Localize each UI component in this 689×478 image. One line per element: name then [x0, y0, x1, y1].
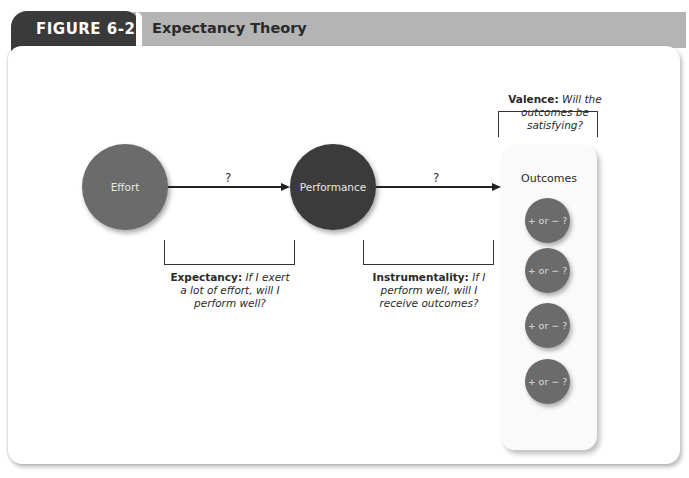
- expectancy-bracket: [164, 240, 295, 265]
- expectancy-caption: Expectancy: If I exert a lot of effort, …: [150, 271, 310, 310]
- effort-performance-arrow: [168, 186, 282, 188]
- effort-node: Effort: [82, 144, 168, 230]
- outcome-item: + or − ?: [525, 198, 570, 243]
- figure-label: FIGURE 6-2: [11, 11, 138, 51]
- outcome-item: + or − ?: [525, 248, 570, 293]
- arrowhead-icon: [492, 183, 501, 191]
- expectancy-line1: If I exert: [245, 271, 289, 283]
- expectancy-term: Expectancy:: [170, 271, 242, 283]
- expectancy-question-mark: ?: [225, 171, 231, 185]
- expectancy-line3: perform well?: [194, 297, 266, 309]
- performance-node: Performance: [290, 144, 376, 230]
- valence-line1: Will the: [562, 93, 602, 105]
- instrumentality-question-mark: ?: [433, 171, 439, 185]
- tab-separator: [136, 12, 142, 48]
- instrumentality-term: Instrumentality:: [373, 271, 469, 283]
- performance-outcomes-arrow: [376, 186, 493, 188]
- effort-label: Effort: [111, 181, 140, 193]
- outcomes-title: Outcomes: [501, 172, 597, 185]
- outcome-item: + or − ?: [525, 303, 570, 348]
- instrumentality-line2: perform well, will I: [381, 284, 478, 296]
- figure-stage: FIGURE 6-2 Expectancy Theory Valence: Wi…: [0, 0, 689, 478]
- outcome-item: + or − ?: [525, 359, 570, 404]
- outcomes-card: Outcomes + or − ? + or − ? + or − ? + or…: [501, 145, 597, 450]
- instrumentality-line1: If I: [472, 271, 485, 283]
- expectancy-line2: a lot of effort, will I: [180, 284, 279, 296]
- instrumentality-line3: receive outcomes?: [379, 297, 478, 309]
- instrumentality-bracket: [363, 240, 494, 265]
- performance-label: Performance: [300, 181, 367, 193]
- figure-title: Expectancy Theory: [152, 20, 307, 36]
- valence-bracket: [498, 111, 598, 137]
- instrumentality-caption: Instrumentality: If I perform well, will…: [348, 271, 510, 310]
- valence-term: Valence:: [508, 93, 558, 105]
- arrowhead-icon: [281, 183, 290, 191]
